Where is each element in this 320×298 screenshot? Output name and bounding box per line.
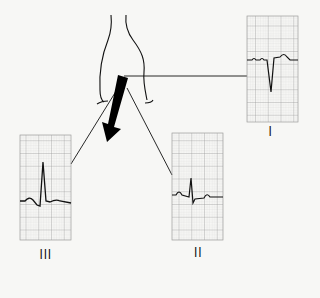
lead-label-III: III (40, 245, 52, 262)
lead-label-II: II (194, 243, 202, 260)
lead-label-I: I (269, 122, 273, 139)
ecg-strip-lead-I (247, 16, 298, 122)
connector-lead-II (127, 88, 172, 175)
axis-arrow-icon (102, 75, 128, 142)
ecg-strip-lead-II (172, 133, 223, 240)
heart-outline (97, 15, 153, 104)
ecg-strip-lead-III (20, 135, 71, 240)
